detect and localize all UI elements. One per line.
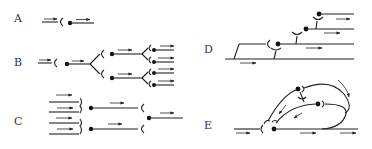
panel-label-c: C <box>14 115 22 128</box>
panel-b-diagram <box>38 45 174 87</box>
panel-label-a: A <box>13 12 23 25</box>
neural-circuit-diagram: A B C D E <box>0 0 372 149</box>
panel-label-b: B <box>14 56 22 69</box>
panel-label-e: E <box>204 119 212 132</box>
panel-c-diagram <box>49 95 183 134</box>
panel-e-diagram <box>234 80 358 133</box>
panel-d-diagram <box>225 12 354 63</box>
panel-a-diagram <box>42 18 94 26</box>
panel-label-d: D <box>204 43 213 56</box>
